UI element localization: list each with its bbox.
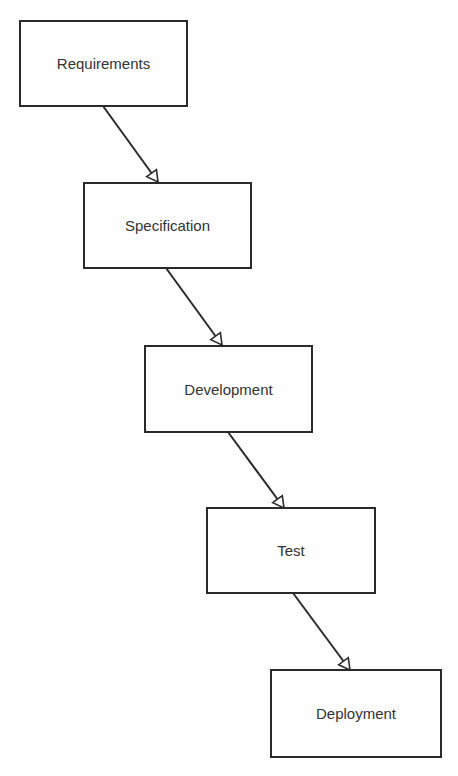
stage-test: Test [206, 507, 376, 594]
stage-deployment: Deployment [270, 669, 442, 758]
stage-requirements: Requirements [19, 20, 188, 107]
arrow-requirements-to-specification [103, 106, 158, 182]
arrow-specification-to-development [166, 268, 222, 345]
arrow-test-to-deployment [293, 593, 350, 670]
stage-label: Test [277, 542, 305, 559]
stage-label: Specification [125, 217, 210, 234]
stage-specification: Specification [83, 182, 252, 269]
stage-label: Requirements [57, 55, 150, 72]
arrow-development-to-test [228, 432, 284, 508]
stage-label: Deployment [316, 705, 396, 722]
stage-development: Development [144, 345, 313, 433]
stage-label: Development [184, 381, 272, 398]
